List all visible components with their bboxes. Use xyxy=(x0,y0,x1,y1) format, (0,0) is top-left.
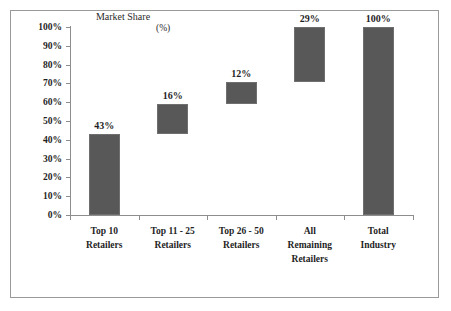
x-axis-category-label: Top 11 - 25Retailers xyxy=(139,224,208,252)
chart-figure: Market Share (%) 0%10%20%30%40%50%60%70%… xyxy=(0,0,451,311)
x-axis-category-line: All xyxy=(276,224,345,238)
bar xyxy=(157,104,188,134)
y-axis-label: 60% xyxy=(14,97,62,107)
bar xyxy=(226,82,257,105)
x-axis-category-label: Top 10Retailers xyxy=(70,224,139,252)
x-axis-tick xyxy=(276,215,277,220)
x-axis-category-line: Top 26 - 50 xyxy=(207,224,276,238)
y-axis-tick xyxy=(66,159,70,160)
y-axis-label: 40% xyxy=(14,135,62,145)
chart-title: Market Share (%) xyxy=(92,11,212,41)
y-axis-tick xyxy=(66,121,70,122)
x-axis-tick xyxy=(413,215,414,220)
x-axis-category-line: Industry xyxy=(344,238,413,252)
bar-value-label: 29% xyxy=(280,13,340,24)
y-axis-label: 90% xyxy=(14,41,62,51)
y-axis-label: 0% xyxy=(14,210,62,220)
bar-value-label: 12% xyxy=(211,68,271,79)
y-axis-tick xyxy=(66,102,70,103)
y-axis-tick xyxy=(66,65,70,66)
y-axis-tick xyxy=(66,27,70,28)
y-axis-label: 80% xyxy=(14,60,62,70)
bar-value-label: 100% xyxy=(348,13,408,24)
x-axis-category-label: AllRemainingRetailers xyxy=(276,224,345,266)
y-axis-label: 30% xyxy=(14,154,62,164)
y-axis-label: 100% xyxy=(14,22,62,32)
y-axis-tick xyxy=(66,46,70,47)
chart-title-unit: (%) xyxy=(156,23,170,33)
y-axis-label: 10% xyxy=(14,191,62,201)
x-axis-category-line: Remaining xyxy=(276,238,345,252)
bar xyxy=(294,27,325,82)
x-axis-category-line: Retailers xyxy=(139,238,208,252)
x-axis-category-line: Total xyxy=(344,224,413,238)
bar-value-label: 16% xyxy=(143,90,203,101)
bar xyxy=(363,27,394,215)
x-axis-category-line: Top 11 - 25 xyxy=(139,224,208,238)
x-axis-category-label: Top 26 - 50Retailers xyxy=(207,224,276,252)
x-axis-line xyxy=(70,215,413,216)
y-axis-tick xyxy=(66,140,70,141)
y-axis-tick xyxy=(66,196,70,197)
x-axis-category-line: Retailers xyxy=(276,252,345,266)
y-axis-tick xyxy=(66,83,70,84)
y-axis-label: 20% xyxy=(14,172,62,182)
x-axis-tick xyxy=(344,215,345,220)
y-axis-tick xyxy=(66,177,70,178)
x-axis-tick xyxy=(70,215,71,220)
bar-value-label: 43% xyxy=(74,120,134,131)
y-axis-line xyxy=(70,26,71,216)
x-axis-tick xyxy=(139,215,140,220)
x-axis-category-line: Top 10 xyxy=(70,224,139,238)
y-axis-label: 50% xyxy=(14,116,62,126)
x-axis-category-label: TotalIndustry xyxy=(344,224,413,252)
x-axis-tick xyxy=(207,215,208,220)
y-axis-label: 70% xyxy=(14,78,62,88)
x-axis-category-line: Retailers xyxy=(207,238,276,252)
x-axis-category-line: Retailers xyxy=(70,238,139,252)
bar xyxy=(89,134,120,215)
chart-title-text: Market Share xyxy=(92,11,154,23)
